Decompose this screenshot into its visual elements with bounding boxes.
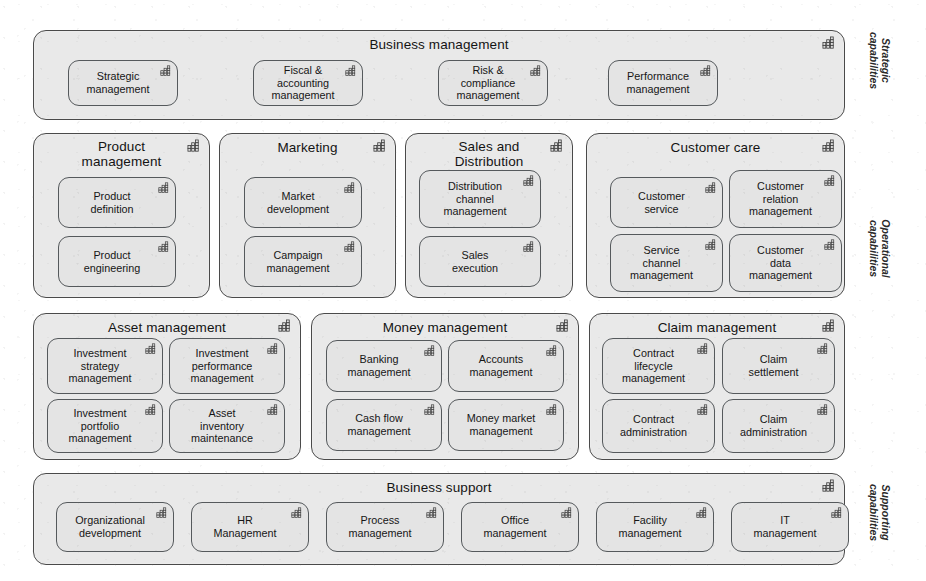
capability-cash-flow-management[interactable]: Cash flowmanagement	[326, 399, 442, 451]
capability-distribution-channel-management[interactable]: Distributionchannelmanagement	[419, 170, 541, 228]
capability-icon	[160, 65, 173, 78]
capability-label-product-engineering: Productengineering	[65, 249, 159, 274]
layer-label-strategic: Strategiccapabilities	[868, 31, 891, 88]
capability-icon	[697, 404, 710, 417]
capability-product-definition[interactable]: Productdefinition	[58, 177, 176, 228]
capability-icon	[817, 343, 830, 356]
capability-label-organizational-development: Organizationaldevelopment	[63, 514, 157, 539]
capability-label-cash-flow-management: Cash flowmanagement	[333, 412, 425, 437]
capability-label-facility-management: Facilitymanagement	[603, 514, 697, 539]
capability-label-money-market-management: Money marketmanagement	[455, 412, 547, 437]
capability-icon	[424, 345, 437, 358]
band-title-product-management: Productmanagement	[34, 139, 209, 169]
capability-icon	[344, 241, 357, 254]
capability-icon	[546, 404, 559, 417]
capability-icon	[705, 182, 718, 195]
capability-investment-strategy-management[interactable]: Investmentstrategymanagement	[47, 338, 163, 394]
capability-label-contract-lifecycle-management: Contractlifecyclemanagement	[609, 347, 698, 385]
capability-icon	[822, 319, 837, 334]
capability-icon	[267, 343, 280, 356]
capability-claim-settlement[interactable]: Claimsettlement	[722, 338, 835, 394]
capability-facility-management[interactable]: Facilitymanagement	[596, 502, 714, 552]
capability-fiscal-accounting-management[interactable]: Fiscal &accountingmanagement	[253, 60, 363, 106]
capability-label-customer-relation-management: Customerrelationmanagement	[736, 180, 825, 218]
capability-label-contract-administration: Contractadministration	[609, 413, 698, 438]
capability-customer-relation-management[interactable]: Customerrelationmanagement	[729, 170, 842, 228]
capability-risk-compliance-management[interactable]: Risk &compliancemanagement	[438, 60, 548, 106]
capability-label-performance-management: Performancemanagement	[615, 70, 701, 95]
capability-product-engineering[interactable]: Productengineering	[58, 236, 176, 287]
capability-icon	[831, 507, 844, 520]
capability-contract-lifecycle-management[interactable]: Contractlifecyclemanagement	[602, 338, 715, 394]
capability-icon	[822, 139, 837, 154]
capability-hr-management[interactable]: HRManagement	[191, 502, 309, 552]
capability-label-risk-compliance-management: Risk &compliancemanagement	[445, 64, 531, 102]
band-title-marketing: Marketing	[220, 140, 395, 155]
capability-label-investment-performance-management: Investmentperformancemanagement	[176, 347, 268, 385]
band-title-customer-care: Customer care	[587, 140, 844, 155]
capability-contract-administration[interactable]: Contractadministration	[602, 399, 715, 453]
capability-customer-service[interactable]: Customerservice	[610, 177, 723, 228]
capability-process-management[interactable]: Processmanagement	[326, 502, 444, 552]
capability-label-distribution-channel-management: Distributionchannelmanagement	[426, 180, 524, 218]
capability-asset-inventory-maintenance[interactable]: Assetinventorymaintenance	[169, 399, 285, 453]
band-title-sales-and-distribution: Sales andDistribution	[406, 139, 572, 169]
capability-icon	[373, 139, 388, 154]
capability-map-diagram: Business managementStrategicmanagementFi…	[0, 0, 926, 581]
capability-icon	[822, 36, 837, 51]
capability-claim-administration[interactable]: Claimadministration	[722, 399, 835, 453]
capability-icon	[344, 182, 357, 195]
capability-investment-portfolio-management[interactable]: Investmentportfoliomanagement	[47, 399, 163, 453]
capability-icon	[145, 343, 158, 356]
capability-campaign-management[interactable]: Campaignmanagement	[244, 236, 362, 287]
capability-banking-management[interactable]: Bankingmanagement	[326, 340, 442, 392]
capability-icon	[561, 507, 574, 520]
capability-label-sales-execution: Salesexecution	[426, 249, 524, 274]
capability-investment-performance-management[interactable]: Investmentperformancemanagement	[169, 338, 285, 394]
capability-icon	[824, 239, 837, 252]
capability-icon	[696, 507, 709, 520]
capability-icon	[546, 345, 559, 358]
capability-label-investment-strategy-management: Investmentstrategymanagement	[54, 347, 146, 385]
capability-label-campaign-management: Campaignmanagement	[251, 249, 345, 274]
capability-strategic-management[interactable]: Strategicmanagement	[68, 60, 178, 106]
capability-customer-data-management[interactable]: Customerdatamanagement	[729, 234, 842, 292]
capability-icon	[817, 404, 830, 417]
band-title-asset-management: Asset management	[34, 320, 300, 335]
capability-label-claim-settlement: Claimsettlement	[729, 353, 818, 378]
band-title-claim-management: Claim management	[590, 320, 844, 335]
capability-accounts-management[interactable]: Accountsmanagement	[448, 340, 564, 392]
capability-icon	[550, 139, 565, 154]
capability-label-it-management: ITmanagement	[738, 514, 832, 539]
band-title-business-support: Business support	[34, 480, 844, 495]
capability-organizational-development[interactable]: Organizationaldevelopment	[56, 502, 174, 552]
capability-icon	[426, 507, 439, 520]
capability-label-service-channel-management: Servicechannelmanagement	[617, 244, 706, 282]
capability-icon	[530, 65, 543, 78]
capability-icon	[523, 175, 536, 188]
capability-icon	[824, 175, 837, 188]
capability-icon	[556, 319, 571, 334]
capability-sales-execution[interactable]: Salesexecution	[419, 236, 541, 287]
capability-service-channel-management[interactable]: Servicechannelmanagement	[610, 234, 723, 292]
capability-icon	[700, 65, 713, 78]
capability-label-customer-data-management: Customerdatamanagement	[736, 244, 825, 282]
capability-label-banking-management: Bankingmanagement	[333, 353, 425, 378]
capability-icon	[158, 241, 171, 254]
capability-icon	[278, 319, 293, 334]
capability-performance-management[interactable]: Performancemanagement	[608, 60, 718, 106]
capability-label-fiscal-accounting-management: Fiscal &accountingmanagement	[260, 64, 346, 102]
capability-label-claim-administration: Claimadministration	[729, 413, 818, 438]
capability-office-management[interactable]: Officemanagement	[461, 502, 579, 552]
capability-label-office-management: Officemanagement	[468, 514, 562, 539]
capability-money-market-management[interactable]: Money marketmanagement	[448, 399, 564, 451]
capability-label-customer-service: Customerservice	[617, 190, 706, 215]
capability-icon	[822, 479, 837, 494]
capability-icon	[158, 182, 171, 195]
capability-market-development[interactable]: Marketdevelopment	[244, 177, 362, 228]
capability-icon	[267, 404, 280, 417]
capability-icon	[424, 404, 437, 417]
capability-it-management[interactable]: ITmanagement	[731, 502, 849, 552]
capability-icon	[523, 241, 536, 254]
capability-label-process-management: Processmanagement	[333, 514, 427, 539]
